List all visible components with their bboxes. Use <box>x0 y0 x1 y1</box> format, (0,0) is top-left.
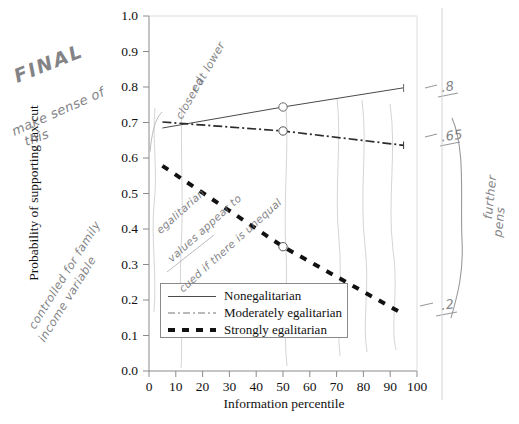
y-tick-marks <box>143 16 149 371</box>
series-marker-moderately-egalitarian <box>279 127 287 135</box>
thick-dashed-line-key <box>166 324 218 336</box>
legend-item-nonegalitarian: Nonegalitarian <box>161 287 347 304</box>
dash-dot-line-key <box>166 307 218 319</box>
y-tick-label: 1.0 <box>104 9 138 23</box>
y-tick-label: 0.9 <box>104 45 138 59</box>
y-tick-label: 0.5 <box>104 187 138 201</box>
chart-legend: Nonegalitarian Moderately egalitarian St… <box>160 283 348 338</box>
y-tick-label: 0.6 <box>104 151 138 165</box>
x-tick-label: 100 <box>400 380 434 394</box>
margin-hand-marks <box>420 85 462 318</box>
chart-page: 1.0 0.9 0.8 0.7 0.6 0.5 0.4 0.3 0.2 0.1 … <box>0 0 519 424</box>
y-tick-label: 0.2 <box>104 293 138 307</box>
y-tick-label: 0.8 <box>104 80 138 94</box>
x-tick-marks <box>149 371 417 377</box>
solid-line-key <box>166 290 218 302</box>
y-tick-label: 0.0 <box>104 364 138 378</box>
series-marker-strongly-egalitarian <box>279 243 287 251</box>
legend-item-strongly-egalitarian: Strongly egalitarian <box>161 321 347 338</box>
y-tick-label: 0.4 <box>104 222 138 236</box>
legend-label: Strongly egalitarian <box>224 322 327 338</box>
legend-label: Nonegalitarian <box>224 288 301 304</box>
series-nonegalitarian <box>162 84 403 128</box>
series-moderately-egalitarian <box>162 122 403 149</box>
y-tick-label: 0.7 <box>104 116 138 130</box>
series-marker-nonegalitarian <box>279 103 287 111</box>
chart-canvas <box>0 0 519 424</box>
y-tick-label: 0.3 <box>104 258 138 272</box>
legend-label: Moderately egalitarian <box>224 305 342 321</box>
y-axis-title: Probability of supporting tax cut <box>26 98 42 288</box>
y-tick-label: 0.1 <box>104 329 138 343</box>
legend-item-moderately-egalitarian: Moderately egalitarian <box>161 304 347 321</box>
x-axis-title: Information percentile <box>148 396 420 412</box>
